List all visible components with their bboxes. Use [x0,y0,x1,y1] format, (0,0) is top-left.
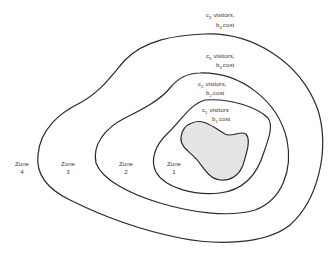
travel-cost-zone-diagram: c4visitors, b4cost c3visitors, b3cost c2… [0,0,333,256]
zone-4-cost-label: b4cost [216,21,234,30]
zone-1-cost-label: b1cost [212,115,230,124]
zone-4-visitors-label: c4visitors, [206,11,235,20]
zone-1-number: 1 [172,168,176,175]
zone-4-outer-boundary [38,34,323,242]
zone-2-visitors-label: c2visitors, [198,80,227,89]
zone-4-label: Zone [15,160,30,167]
zone-1-visitors-label: c1visitors [202,106,229,115]
zone-2-number: 2 [124,168,128,175]
zone-4-number: 4 [20,168,24,175]
recreation-site-shaded-area [181,121,248,180]
zone-3-cost-label: b3cost [216,61,234,70]
zone-2-label: Zone [119,160,134,167]
zone-3-label: Zone [61,160,76,167]
zone-3-number: 3 [66,168,70,175]
zone-2-cost-label: b2cost [206,89,224,98]
zone-3-visitors-label: c3visitors, [206,52,235,61]
zone-1-label: Zone [167,160,182,167]
